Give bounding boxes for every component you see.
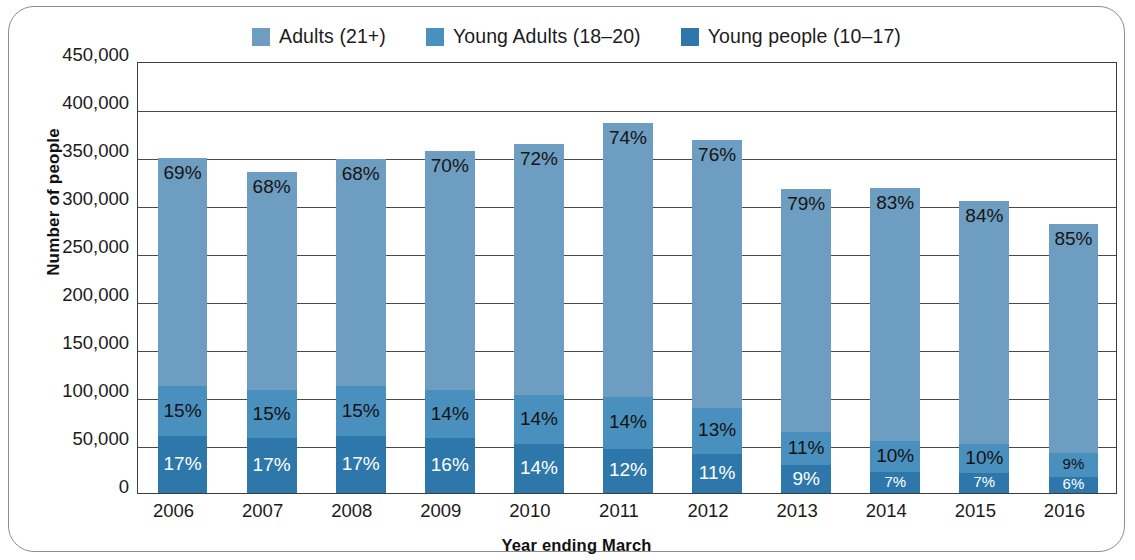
bar-segment-label: 84% bbox=[965, 206, 1003, 225]
bar-segment[interactable]: 14% bbox=[603, 397, 653, 449]
x-axis-tick-label: 2015 bbox=[931, 500, 1020, 522]
bar-stack[interactable]: 68%15%17% bbox=[247, 63, 297, 493]
bar-segment[interactable]: 9% bbox=[781, 465, 831, 493]
chart-frame: Adults (21+)Young Adults (18–20)Young pe… bbox=[8, 6, 1125, 552]
bar-segment[interactable]: 17% bbox=[158, 436, 208, 493]
bar-segment[interactable]: 15% bbox=[158, 386, 208, 436]
bar-segment-label: 70% bbox=[431, 156, 469, 175]
bar-segment-label: 76% bbox=[698, 145, 736, 164]
bar-segment[interactable]: 83% bbox=[870, 188, 920, 441]
bar-segment-label: 14% bbox=[609, 412, 647, 431]
bar-segment[interactable]: 9% bbox=[1049, 453, 1099, 477]
y-axis-tick-label: 100,000 bbox=[17, 382, 129, 401]
bar-segment-label: 6% bbox=[1063, 476, 1085, 491]
bar-segment-label: 15% bbox=[164, 401, 202, 420]
bar-stack[interactable]: 68%15%17% bbox=[336, 63, 386, 493]
bar-segment[interactable]: 14% bbox=[514, 444, 564, 493]
bar-segment-label: 17% bbox=[164, 454, 202, 473]
bar-stack[interactable]: 84%10%7% bbox=[959, 63, 1009, 493]
bar-series-container: 69%15%17%68%15%17%68%15%17%70%14%16%72%1… bbox=[138, 63, 1116, 493]
bar-segment-label: 10% bbox=[965, 448, 1003, 467]
bar-segment[interactable]: 16% bbox=[425, 438, 475, 493]
bar-segment-label: 11% bbox=[788, 438, 825, 457]
y-axis-tick-label: 0 bbox=[17, 478, 129, 497]
bar-stack[interactable]: 83%10%7% bbox=[870, 63, 920, 493]
x-axis-tick-label: 2014 bbox=[842, 500, 931, 522]
bar-segment[interactable]: 7% bbox=[870, 472, 920, 493]
bar-segment-label: 7% bbox=[974, 474, 996, 489]
bar-segment-label: 9% bbox=[792, 469, 819, 488]
y-axis-tick-label: 250,000 bbox=[17, 238, 129, 257]
bar-segment[interactable]: 70% bbox=[425, 151, 475, 390]
bar-segment[interactable]: 17% bbox=[336, 436, 386, 493]
x-axis-tick-label: 2011 bbox=[574, 500, 663, 522]
bar-segment[interactable]: 14% bbox=[514, 395, 564, 444]
bar-segment[interactable]: 69% bbox=[158, 158, 208, 386]
bar-segment[interactable]: 6% bbox=[1049, 477, 1099, 493]
bar-segment-label: 72% bbox=[520, 149, 558, 168]
bar-segment[interactable]: 10% bbox=[870, 441, 920, 472]
y-axis-tick-label: 300,000 bbox=[17, 190, 129, 209]
bar-segment-label: 68% bbox=[253, 177, 291, 196]
bar-segment-label: 10% bbox=[876, 446, 914, 465]
bar-segment-label: 7% bbox=[884, 474, 906, 489]
bar-segment-label: 13% bbox=[698, 420, 736, 439]
bar-segment[interactable]: 72% bbox=[514, 144, 564, 396]
x-axis-tick-label: 2010 bbox=[485, 500, 574, 522]
bar-segment-label: 17% bbox=[253, 455, 291, 474]
x-axis-tick-label: 2016 bbox=[1020, 500, 1109, 522]
bar-stack[interactable]: 70%14%16% bbox=[425, 63, 475, 493]
bar-segment-label: 11% bbox=[699, 463, 736, 482]
bar-segment-label: 15% bbox=[342, 401, 380, 420]
bar-stack[interactable]: 74%14%12% bbox=[603, 63, 653, 493]
bar-stack[interactable]: 72%14%14% bbox=[514, 63, 564, 493]
bar-segment-label: 14% bbox=[520, 458, 558, 477]
bar-segment-label: 69% bbox=[164, 163, 202, 182]
bar-segment-label: 12% bbox=[609, 460, 647, 479]
bar-segment[interactable]: 10% bbox=[959, 444, 1009, 473]
x-axis-tick-label: 2007 bbox=[218, 500, 307, 522]
bar-segment[interactable]: 7% bbox=[959, 473, 1009, 493]
bar-segment[interactable]: 11% bbox=[692, 454, 742, 493]
x-axis-tick-label: 2008 bbox=[307, 500, 396, 522]
bar-segment[interactable]: 68% bbox=[336, 159, 386, 387]
bar-segment[interactable]: 76% bbox=[692, 140, 742, 408]
plot-area: 69%15%17%68%15%17%68%15%17%70%14%16%72%1… bbox=[137, 62, 1117, 494]
bar-segment-label: 17% bbox=[342, 454, 380, 473]
x-axis-tick-label: 2006 bbox=[129, 500, 218, 522]
bar-segment-label: 83% bbox=[876, 193, 914, 212]
bar-segment[interactable]: 74% bbox=[603, 123, 653, 397]
bar-segment-label: 85% bbox=[1054, 229, 1092, 248]
bar-segment-label: 16% bbox=[431, 455, 469, 474]
y-axis-tick-label: 50,000 bbox=[17, 430, 129, 449]
bar-segment[interactable]: 79% bbox=[781, 189, 831, 432]
bar-segment[interactable]: 14% bbox=[425, 390, 475, 438]
bar-stack[interactable]: 85%9%6% bbox=[1049, 63, 1099, 493]
y-axis-tick-label: 350,000 bbox=[17, 142, 129, 161]
bar-segment[interactable]: 12% bbox=[603, 449, 653, 493]
bar-segment-label: 74% bbox=[609, 128, 647, 147]
y-axis-tick-label: 150,000 bbox=[17, 334, 129, 353]
bar-segment-label: 68% bbox=[342, 164, 380, 183]
bar-stack[interactable]: 76%13%11% bbox=[692, 63, 742, 493]
bar-segment[interactable]: 15% bbox=[336, 386, 386, 436]
y-axis-tick-label: 400,000 bbox=[17, 94, 129, 113]
x-axis-tick-label: 2013 bbox=[753, 500, 842, 522]
bar-segment[interactable]: 68% bbox=[247, 172, 297, 390]
bar-segment-label: 9% bbox=[1063, 456, 1085, 471]
bar-segment-label: 79% bbox=[787, 194, 825, 213]
bar-stack[interactable]: 69%15%17% bbox=[158, 63, 208, 493]
bar-segment[interactable]: 13% bbox=[692, 408, 742, 454]
bar-segment-label: 14% bbox=[520, 409, 558, 428]
bar-segment[interactable]: 15% bbox=[247, 390, 297, 438]
bar-segment[interactable]: 85% bbox=[1049, 224, 1099, 452]
bar-segment[interactable]: 11% bbox=[781, 432, 831, 466]
bar-segment-label: 15% bbox=[253, 404, 291, 423]
bar-segment[interactable]: 17% bbox=[247, 438, 297, 493]
y-axis-tick-label: 200,000 bbox=[17, 286, 129, 305]
y-axis-tick-label: 450,000 bbox=[17, 46, 129, 65]
bar-segment-label: 14% bbox=[431, 404, 469, 423]
bar-segment[interactable]: 84% bbox=[959, 201, 1009, 444]
x-axis-tick-label: 2009 bbox=[396, 500, 485, 522]
bar-stack[interactable]: 79%11%9% bbox=[781, 63, 831, 493]
